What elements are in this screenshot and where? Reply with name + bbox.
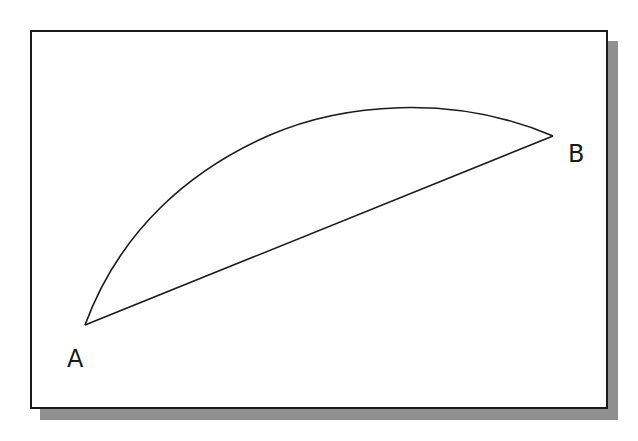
line-a-to-b bbox=[85, 136, 553, 325]
point-a-label: A bbox=[67, 345, 84, 373]
curve-a-to-b bbox=[85, 108, 553, 325]
diagram-canvas: A B bbox=[0, 0, 638, 441]
point-b-label: B bbox=[568, 140, 584, 168]
